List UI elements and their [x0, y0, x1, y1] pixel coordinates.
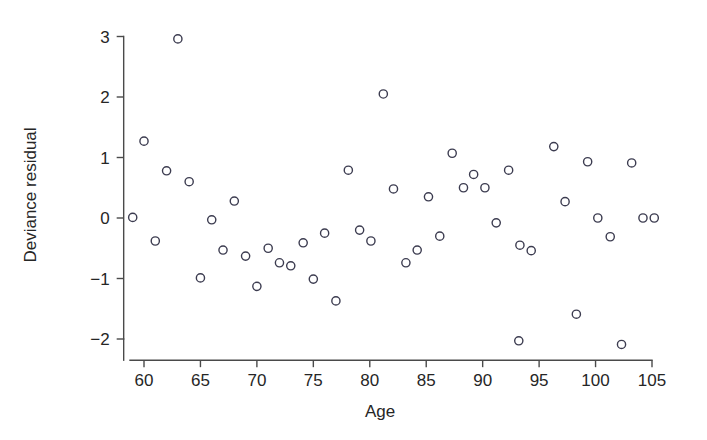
data-point — [275, 259, 283, 267]
data-point — [242, 252, 250, 260]
plot-canvas: −2−10123 6065707580859095100105 Age Devi… — [0, 0, 707, 440]
data-point — [459, 184, 467, 192]
data-point — [196, 274, 204, 282]
data-point — [561, 198, 569, 206]
data-point — [527, 247, 535, 255]
y-tick-label: 0 — [100, 209, 109, 228]
data-point — [628, 159, 636, 167]
y-tick-label: −2 — [90, 330, 109, 349]
data-point — [492, 219, 500, 227]
data-point — [505, 166, 513, 174]
data-point — [515, 337, 523, 345]
data-point — [344, 166, 352, 174]
data-point — [516, 241, 524, 249]
data-point — [264, 244, 272, 252]
data-point — [584, 158, 592, 166]
y-tick-label: −1 — [90, 270, 109, 289]
data-point — [436, 232, 444, 240]
data-point — [389, 185, 397, 193]
data-point — [650, 214, 658, 222]
data-point — [299, 239, 307, 247]
data-point — [550, 143, 558, 151]
data-point — [481, 184, 489, 192]
data-point — [219, 246, 227, 254]
data-point — [321, 229, 329, 237]
x-tick-label: 65 — [191, 371, 210, 390]
data-point-layer — [129, 35, 659, 349]
x-tick-label: 85 — [417, 371, 436, 390]
data-point — [287, 262, 295, 270]
y-tick-label: 1 — [100, 149, 109, 168]
data-point — [140, 137, 148, 145]
data-point — [617, 340, 625, 348]
data-point — [639, 214, 647, 222]
x-axis-title: Age — [365, 402, 395, 421]
data-point — [174, 35, 182, 43]
x-tick-label: 105 — [638, 371, 666, 390]
x-tick-label: 100 — [581, 371, 609, 390]
data-point — [413, 246, 421, 254]
x-tick-label: 60 — [135, 371, 154, 390]
data-point — [332, 297, 340, 305]
data-point — [379, 90, 387, 98]
data-point — [470, 170, 478, 178]
data-point — [162, 167, 170, 175]
data-point — [151, 237, 159, 245]
y-tick-label: 2 — [100, 88, 109, 107]
data-point — [606, 233, 614, 241]
data-point — [309, 275, 317, 283]
data-point — [356, 226, 364, 234]
x-tick-label: 95 — [530, 371, 549, 390]
y-axis-title: Deviance residual — [21, 127, 40, 262]
x-tick-label: 80 — [360, 371, 379, 390]
data-point — [129, 213, 137, 221]
x-tick-label: 75 — [304, 371, 323, 390]
scatter-plot-figure: −2−10123 6065707580859095100105 Age Devi… — [0, 0, 707, 440]
data-point — [230, 197, 238, 205]
data-point — [448, 149, 456, 157]
x-axis: 6065707580859095100105 — [124, 339, 667, 390]
data-point — [402, 259, 410, 267]
data-point — [424, 193, 432, 201]
data-point — [367, 237, 375, 245]
x-tick-label: 70 — [247, 371, 266, 390]
data-point — [572, 310, 580, 318]
y-axis: −2−10123 — [90, 28, 123, 350]
data-point — [253, 282, 261, 290]
data-point — [185, 178, 193, 186]
x-tick-label: 90 — [473, 371, 492, 390]
data-point — [594, 214, 602, 222]
y-tick-label: 3 — [100, 28, 109, 47]
data-point — [208, 216, 216, 224]
